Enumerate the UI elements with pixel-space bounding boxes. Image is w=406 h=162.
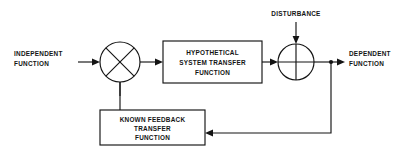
- block-diagram-svg: HYPOTHETICAL SYSTEM TRANSFER FUNCTION: [0, 0, 406, 162]
- wire-disturbance-to-output-junction: [293, 22, 300, 44]
- summing-junction-left: [100, 42, 140, 82]
- feedback-block-line2: TRANSFER: [134, 125, 171, 132]
- wire-summing-junction-to-forward-block: [140, 59, 163, 66]
- forward-block-line3: FUNCTION: [195, 69, 230, 76]
- independent-function-label: INDEPENDENT FUNCTION: [14, 50, 63, 67]
- summing-junction-right: [278, 44, 314, 80]
- wire-input-to-summing-junction: [78, 59, 100, 66]
- hypothetical-system-transfer-function-block[interactable]: HYPOTHETICAL SYSTEM TRANSFER FUNCTION: [163, 41, 262, 83]
- independent-function-label-line2: FUNCTION: [14, 60, 49, 67]
- disturbance-label: DISTURBANCE: [271, 10, 321, 17]
- arrowhead-output: [337, 59, 345, 66]
- wire-output-to-dependent-function: [314, 59, 345, 66]
- forward-block-line1: HYPOTHETICAL: [186, 49, 239, 56]
- arrowhead-output-junction-input: [270, 59, 278, 66]
- disturbance-label-line1: DISTURBANCE: [271, 10, 321, 17]
- arrowhead-disturbance: [293, 36, 300, 44]
- forward-block-line2: SYSTEM TRANSFER: [179, 59, 246, 66]
- known-feedback-transfer-function-block[interactable]: KNOWN FEEDBACK TRANSFER FUNCTION: [100, 110, 205, 145]
- arrowhead-input: [92, 59, 100, 66]
- dependent-function-label-line1: DEPENDENT: [349, 50, 391, 57]
- feedback-block-line1: KNOWN FEEDBACK: [120, 116, 186, 123]
- block-diagram-canvas: HYPOTHETICAL SYSTEM TRANSFER FUNCTION: [0, 0, 406, 162]
- dependent-function-label: DEPENDENT FUNCTION: [349, 50, 391, 67]
- arrowhead-feedback-block-input: [205, 130, 213, 137]
- arrowhead-forward-block-input: [155, 59, 163, 66]
- feedback-block-line3: FUNCTION: [135, 134, 170, 141]
- dependent-function-label-line2: FUNCTION: [349, 60, 384, 67]
- wire-forward-block-to-output-junction: [262, 59, 278, 66]
- independent-function-label-line1: INDEPENDENT: [14, 50, 63, 57]
